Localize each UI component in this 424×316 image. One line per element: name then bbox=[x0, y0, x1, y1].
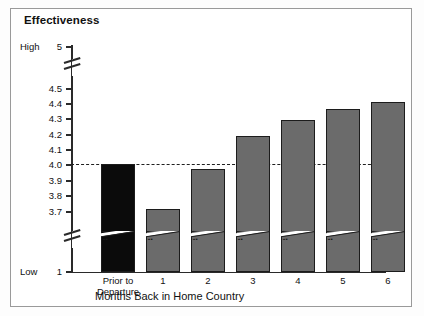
bar-2[interactable] bbox=[191, 169, 225, 272]
low-endpoint-label: Low bbox=[20, 266, 46, 277]
tick-label: 4.1 bbox=[24, 144, 62, 155]
bar-prior-to-departure[interactable] bbox=[101, 164, 135, 272]
tick-label: 4.5 bbox=[24, 83, 62, 94]
tick-mark bbox=[66, 271, 72, 272]
x-axis-title: Months Back in Home Country bbox=[95, 290, 244, 302]
tick-mark bbox=[66, 88, 72, 89]
x-category-label: 6 bbox=[357, 276, 419, 287]
bar-5[interactable] bbox=[326, 109, 360, 272]
tick-mark bbox=[66, 134, 72, 135]
y-axis-break-top bbox=[64, 62, 81, 73]
bar-6[interactable] bbox=[371, 102, 405, 272]
bar-3[interactable] bbox=[236, 136, 270, 272]
tick-mark bbox=[66, 46, 72, 47]
tick-mark bbox=[66, 103, 72, 104]
y-axis-break-bottom bbox=[64, 234, 81, 245]
tick-label: 4.4 bbox=[24, 98, 62, 109]
tick-label: 4.0 bbox=[24, 159, 62, 170]
tick-mark bbox=[66, 180, 72, 181]
bar-4[interactable] bbox=[281, 120, 315, 272]
tick-mark bbox=[66, 149, 72, 150]
tick-mark bbox=[66, 118, 72, 119]
page-title: Effectiveness bbox=[24, 14, 99, 26]
tick-label: 3.7 bbox=[24, 206, 62, 217]
tick-label: 4.3 bbox=[24, 113, 62, 124]
high-endpoint-label: High bbox=[20, 41, 46, 52]
tick-mark bbox=[66, 195, 72, 196]
tick-label: 3.9 bbox=[24, 175, 62, 186]
bar-1[interactable] bbox=[146, 209, 180, 272]
chart-figure: Effectiveness 5High4.54.44.34.24.14.03.9… bbox=[0, 0, 424, 316]
tick-label: 4.2 bbox=[24, 129, 62, 140]
tick-label: 3.8 bbox=[24, 190, 62, 201]
tick-mark bbox=[66, 211, 72, 212]
